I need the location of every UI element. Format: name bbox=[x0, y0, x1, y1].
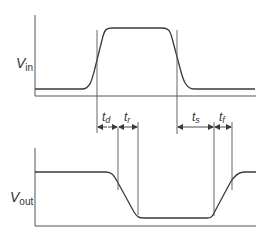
timing-markers bbox=[97, 30, 232, 216]
output-axes bbox=[35, 148, 256, 226]
tf-label: tf bbox=[219, 110, 226, 125]
input-axes bbox=[35, 15, 256, 96]
ts-label: ts bbox=[192, 110, 200, 125]
td-label: td bbox=[102, 110, 111, 125]
vin-label: Vin bbox=[16, 55, 33, 73]
vout-label: Vout bbox=[10, 189, 33, 207]
timing-diagram: Vin Vout td tr ts tf bbox=[0, 0, 272, 239]
input-waveform bbox=[35, 28, 255, 89]
output-waveform bbox=[35, 172, 256, 218]
tr-label: tr bbox=[124, 110, 131, 125]
